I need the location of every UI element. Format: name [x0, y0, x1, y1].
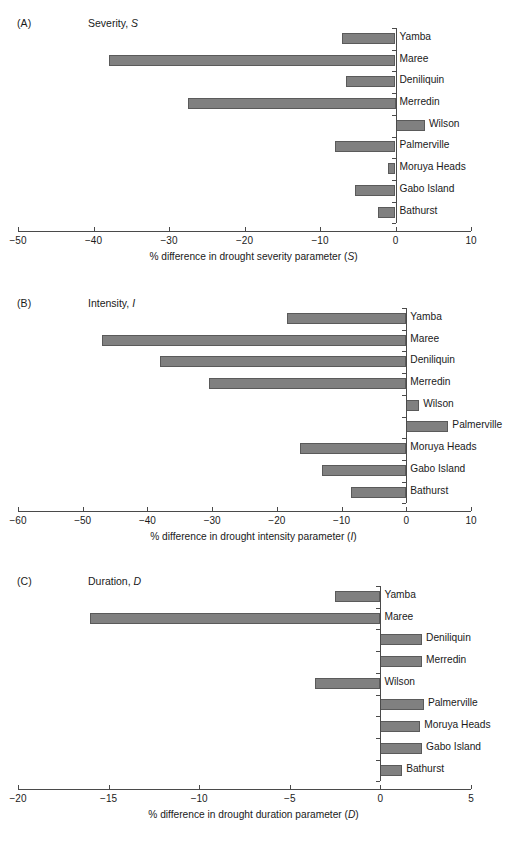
bar-wilson[interactable]: [315, 678, 380, 689]
bar-palmerville[interactable]: [335, 141, 395, 152]
category-label: Deniliquin: [410, 354, 455, 365]
x-axis-tick: [342, 507, 343, 511]
bar-deniliquin[interactable]: [380, 634, 422, 645]
category-label: Yamba: [384, 589, 416, 600]
x-axis-tick-label: 0: [404, 515, 410, 526]
category-label: Deniliquin: [400, 74, 445, 85]
bar-gabo-island[interactable]: [380, 743, 422, 754]
category-label: Bathurst: [406, 763, 444, 774]
category-tick: [392, 50, 396, 51]
x-axis-tick: [471, 785, 472, 789]
bar-row: Palmerville: [0, 416, 507, 438]
bar-row: Palmerville: [0, 136, 507, 158]
x-axis-tick-label: −50: [10, 235, 27, 246]
bar-palmerville[interactable]: [406, 421, 448, 432]
x-axis-tick: [245, 227, 246, 231]
category-tick: [402, 482, 406, 483]
category-tick: [376, 781, 380, 782]
bar-row: Merredin: [0, 651, 507, 673]
bar-moruya-heads[interactable]: [380, 721, 420, 732]
category-label: Gabo Island: [426, 741, 481, 752]
panel-intensity: (B) Intensity, I YambaMareeDeniliquinMer…: [0, 280, 507, 558]
bar-bathurst[interactable]: [380, 765, 402, 776]
category-tick: [392, 71, 396, 72]
x-axis-tick-label: 10: [465, 515, 476, 526]
bar-palmerville[interactable]: [380, 699, 423, 710]
category-label: Wilson: [429, 118, 460, 129]
bar-row: Gabo Island: [0, 738, 507, 760]
x-axis-tick: [277, 507, 278, 511]
category-tick: [376, 738, 380, 739]
x-axis-title: % difference in drought duration paramet…: [0, 809, 507, 820]
bar-row: Moruya Heads: [0, 158, 507, 180]
category-tick: [376, 608, 380, 609]
bar-moruya-heads[interactable]: [388, 163, 396, 174]
category-label: Moruya Heads: [424, 719, 490, 730]
category-label: Merredin: [410, 376, 450, 387]
category-tick: [402, 330, 406, 331]
bar-row: Wilson: [0, 115, 507, 137]
category-tick: [376, 586, 380, 587]
category-label: Bathurst: [400, 205, 438, 216]
category-tick: [376, 695, 380, 696]
x-axis-tick: [406, 507, 407, 511]
x-axis-tick-label: 0: [378, 793, 384, 804]
category-tick: [392, 223, 396, 224]
category-tick: [402, 351, 406, 352]
category-label: Bathurst: [410, 485, 448, 496]
x-axis-tick-label: −30: [204, 515, 221, 526]
bar-moruya-heads[interactable]: [300, 443, 407, 454]
x-axis-tick: [83, 507, 84, 511]
bar-merredin[interactable]: [209, 378, 406, 389]
x-axis-tick-label: −20: [10, 793, 27, 804]
x-axis-tick: [18, 227, 19, 231]
x-axis-tick: [471, 227, 472, 231]
bar-gabo-island[interactable]: [322, 465, 406, 476]
x-axis-tick-label: −50: [74, 515, 91, 526]
bar-merredin[interactable]: [188, 98, 396, 109]
bar-bathurst[interactable]: [378, 207, 395, 218]
x-axis-tick: [471, 507, 472, 511]
bar-wilson[interactable]: [406, 400, 419, 411]
x-axis-tick-label: −20: [268, 515, 285, 526]
bar-bathurst[interactable]: [351, 487, 406, 498]
bar-row: Gabo Island: [0, 180, 507, 202]
category-tick: [392, 28, 396, 29]
bar-maree[interactable]: [102, 335, 406, 346]
bar-yamba[interactable]: [342, 33, 396, 44]
bar-yamba[interactable]: [287, 313, 407, 324]
bar-maree[interactable]: [90, 613, 380, 624]
bar-row: Yamba: [0, 28, 507, 50]
category-label: Gabo Island: [410, 463, 465, 474]
x-axis-tick: [109, 785, 110, 789]
category-label: Merredin: [400, 96, 440, 107]
bar-deniliquin[interactable]: [160, 356, 406, 367]
bar-row: Yamba: [0, 308, 507, 330]
x-axis-tick: [147, 507, 148, 511]
x-axis-tick-label: −20: [236, 235, 253, 246]
bar-row: Wilson: [0, 673, 507, 695]
bar-row: Bathurst: [0, 760, 507, 782]
bar-merredin[interactable]: [380, 656, 422, 667]
category-label: Palmerville: [452, 419, 502, 430]
category-tick: [402, 308, 406, 309]
x-axis-tick-label: 5: [468, 793, 474, 804]
bar-yamba[interactable]: [335, 591, 380, 602]
category-tick: [392, 158, 396, 159]
x-axis-tick-label: −30: [161, 235, 178, 246]
category-label: Yamba: [400, 31, 432, 42]
category-label: Wilson: [423, 398, 454, 409]
bar-row: Wilson: [0, 395, 507, 417]
category-tick: [392, 202, 396, 203]
x-axis-tick-label: −40: [139, 515, 156, 526]
bar-gabo-island[interactable]: [355, 185, 395, 196]
x-axis-tick-label: −10: [312, 235, 329, 246]
bar-maree[interactable]: [109, 55, 396, 66]
bar-wilson[interactable]: [396, 120, 425, 131]
x-axis-title: % difference in drought intensity parame…: [0, 531, 507, 542]
bar-deniliquin[interactable]: [346, 76, 395, 87]
category-label: Moruya Heads: [400, 161, 466, 172]
bar-row: Deniliquin: [0, 71, 507, 93]
x-axis-tick: [199, 785, 200, 789]
bar-row: Maree: [0, 330, 507, 352]
